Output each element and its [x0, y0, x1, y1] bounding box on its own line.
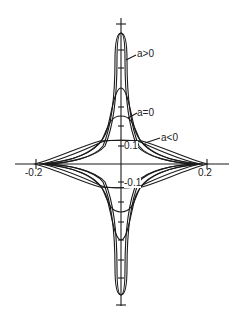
y-tick-label-pos: 0.1	[124, 141, 138, 151]
y-tick-label-neg: -0.1	[124, 178, 141, 188]
curve-label-a-zero: a=0	[137, 108, 154, 118]
x-tick-label-neg: -0.2	[25, 168, 42, 178]
curve-label-a-neg: a<0	[161, 133, 178, 143]
x-tick-label-pos: 0.2	[198, 168, 212, 178]
curve-label-a-pos: a>0	[137, 49, 154, 59]
curve-family-diagram	[0, 0, 240, 319]
